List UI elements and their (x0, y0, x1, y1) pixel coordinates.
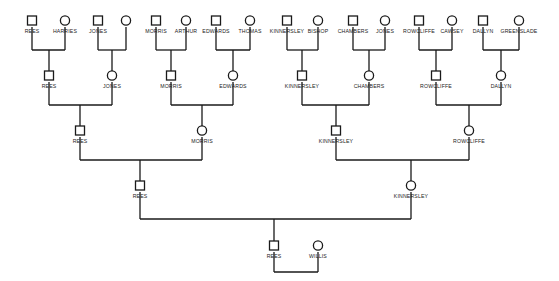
person-node[interactable]: HARRIES (53, 16, 78, 34)
person-node[interactable]: ROWCLIFFE (420, 71, 452, 89)
female-circle-symbol[interactable] (514, 16, 523, 25)
person-label: THOMAS (238, 28, 261, 34)
person-node[interactable]: KINNERSLEY (285, 71, 320, 89)
male-square-symbol[interactable] (432, 71, 441, 80)
female-circle-symbol[interactable] (496, 71, 505, 80)
female-circle-symbol[interactable] (380, 16, 389, 25)
person-label: ARTHUR (175, 28, 198, 34)
female-circle-symbol[interactable] (447, 16, 456, 25)
person-label: HARRIES (53, 28, 78, 34)
person-node[interactable]: REES (73, 126, 88, 144)
female-circle-symbol[interactable] (107, 71, 116, 80)
male-square-symbol[interactable] (45, 71, 54, 80)
person-label: REES (42, 83, 57, 89)
person-node[interactable]: REES (25, 16, 40, 34)
person-node[interactable]: JONES (89, 16, 107, 34)
female-circle-symbol[interactable] (313, 241, 322, 250)
person-node[interactable]: CHAMBERS (338, 16, 369, 34)
person-node[interactable]: KINNERSLEY (394, 181, 429, 199)
person-label: EDWARDS (219, 83, 247, 89)
pedigree-diagram: REESHARRIESJONESMORRISARTHUREDWARDSTHOMA… (0, 0, 559, 281)
male-square-symbol[interactable] (152, 16, 161, 25)
person-label: ROWCLIFFE (403, 28, 435, 34)
person-label: DALLYN (473, 28, 494, 34)
person-node[interactable]: DALLYN (473, 16, 494, 34)
male-square-symbol[interactable] (167, 71, 176, 80)
male-square-symbol[interactable] (94, 16, 103, 25)
person-label: JONES (376, 28, 394, 34)
person-node[interactable]: REES (267, 241, 282, 259)
person-node[interactable]: MORRIS (160, 71, 182, 89)
person-node[interactable] (121, 16, 130, 25)
union-connector (80, 137, 202, 181)
female-circle-symbol[interactable] (406, 181, 415, 190)
person-label: CHAMBERS (354, 83, 385, 89)
person-node[interactable]: THOMAS (238, 16, 261, 34)
person-label: CHAMBERS (338, 28, 369, 34)
male-square-symbol[interactable] (212, 16, 221, 25)
person-label: WILLIS (309, 253, 327, 259)
person-node[interactable]: MORRIS (145, 16, 167, 34)
female-circle-symbol[interactable] (245, 16, 254, 25)
female-circle-symbol[interactable] (121, 16, 130, 25)
male-square-symbol[interactable] (76, 126, 85, 135)
person-label: MORRIS (145, 28, 167, 34)
female-circle-symbol[interactable] (464, 126, 473, 135)
person-node[interactable]: KINNERSLEY (319, 126, 354, 144)
person-label: REES (267, 253, 282, 259)
person-label: DALLYN (491, 83, 512, 89)
person-label: KINNERSLEY (270, 28, 305, 34)
person-node[interactable]: REES (42, 71, 57, 89)
person-label: KINNERSLEY (394, 193, 429, 199)
person-label: JONES (103, 83, 121, 89)
female-circle-symbol[interactable] (364, 71, 373, 80)
person-label: ROWCLIFFE (453, 138, 485, 144)
union-connector (336, 137, 469, 181)
pedigree-chart: REESHARRIESJONESMORRISARTHUREDWARDSTHOMA… (0, 0, 559, 281)
person-node[interactable]: ROWCLIFFE (403, 16, 435, 34)
person-label: ROWCLIFFE (420, 83, 452, 89)
person-node[interactable]: MORRIS (191, 126, 213, 144)
person-label: CAWSEY (440, 28, 464, 34)
person-node[interactable]: CAWSEY (440, 16, 464, 34)
person-label: BISHOP (308, 28, 329, 34)
male-square-symbol[interactable] (479, 16, 488, 25)
male-square-symbol[interactable] (136, 181, 145, 190)
person-node[interactable]: WILLIS (309, 241, 327, 259)
person-label: REES (133, 193, 148, 199)
male-square-symbol[interactable] (332, 126, 341, 135)
person-label: GREENSLADE (501, 28, 538, 34)
person-node[interactable]: ARTHUR (175, 16, 198, 34)
male-square-symbol[interactable] (349, 16, 358, 25)
person-label: REES (25, 28, 40, 34)
person-node[interactable]: BISHOP (308, 16, 329, 34)
person-node[interactable]: DALLYN (491, 71, 512, 89)
person-node[interactable]: GREENSLADE (501, 16, 538, 34)
male-square-symbol[interactable] (270, 241, 279, 250)
male-square-symbol[interactable] (298, 71, 307, 80)
person-node[interactable]: EDWARDS (202, 16, 230, 34)
female-circle-symbol[interactable] (197, 126, 206, 135)
person-node[interactable]: KINNERSLEY (270, 16, 305, 34)
person-node[interactable]: CHAMBERS (354, 71, 385, 89)
person-label: KINNERSLEY (285, 83, 320, 89)
person-label: KINNERSLEY (319, 138, 354, 144)
male-square-symbol[interactable] (283, 16, 292, 25)
person-label: EDWARDS (202, 28, 230, 34)
person-label: MORRIS (191, 138, 213, 144)
person-node[interactable]: JONES (103, 71, 121, 89)
person-node[interactable]: ROWCLIFFE (453, 126, 485, 144)
female-circle-symbol[interactable] (313, 16, 322, 25)
union-connector (140, 192, 411, 241)
male-square-symbol[interactable] (415, 16, 424, 25)
female-circle-symbol[interactable] (181, 16, 190, 25)
female-circle-symbol[interactable] (60, 16, 69, 25)
person-node[interactable]: JONES (376, 16, 394, 34)
person-label: REES (73, 138, 88, 144)
male-square-symbol[interactable] (28, 16, 37, 25)
person-node[interactable]: REES (133, 181, 148, 199)
person-label: MORRIS (160, 83, 182, 89)
female-circle-symbol[interactable] (228, 71, 237, 80)
person-label: JONES (89, 28, 107, 34)
person-node[interactable]: EDWARDS (219, 71, 247, 89)
